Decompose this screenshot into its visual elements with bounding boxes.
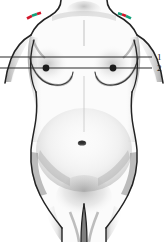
reference-line-2-label: 2 [157,64,162,73]
navel-marker [78,140,86,145]
anatomical-figure-panel: 1 2 [0,0,168,242]
nipple-marker-right [110,65,117,72]
torso-illustration [0,0,168,242]
nipple-marker-left [43,65,50,72]
reference-line-1-label: 1 [157,53,162,62]
